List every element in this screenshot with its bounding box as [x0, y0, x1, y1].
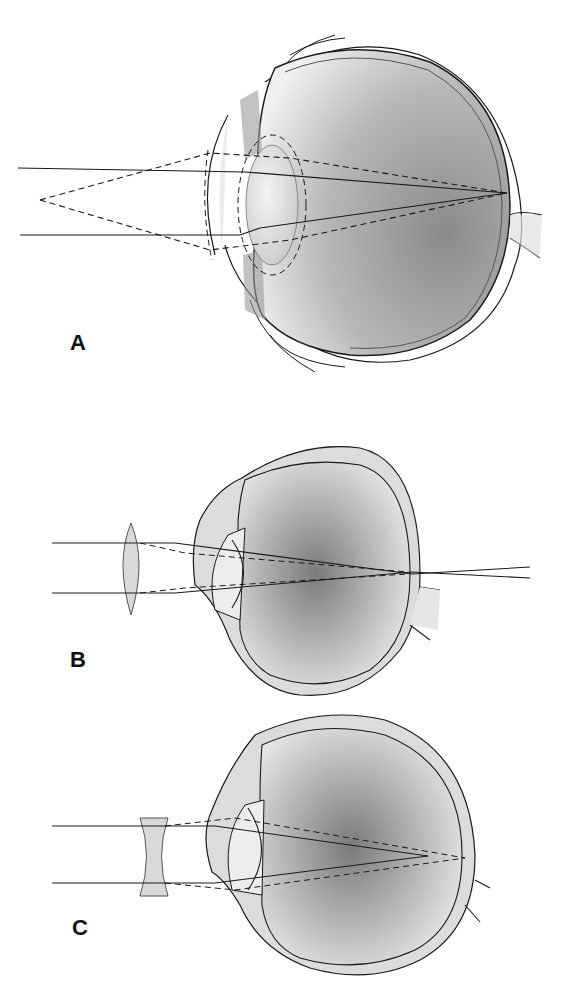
panel-c-concave-lens: [140, 818, 168, 896]
panel-a-eye: [205, 35, 542, 375]
panel-label-b: B: [70, 647, 86, 673]
panel-b-convex-lens: [123, 523, 139, 615]
panel-label-a: A: [70, 330, 86, 356]
panel-label-c: C: [72, 915, 88, 941]
panel-b-eye: [193, 447, 440, 696]
eye-refraction-diagram: [0, 0, 574, 987]
